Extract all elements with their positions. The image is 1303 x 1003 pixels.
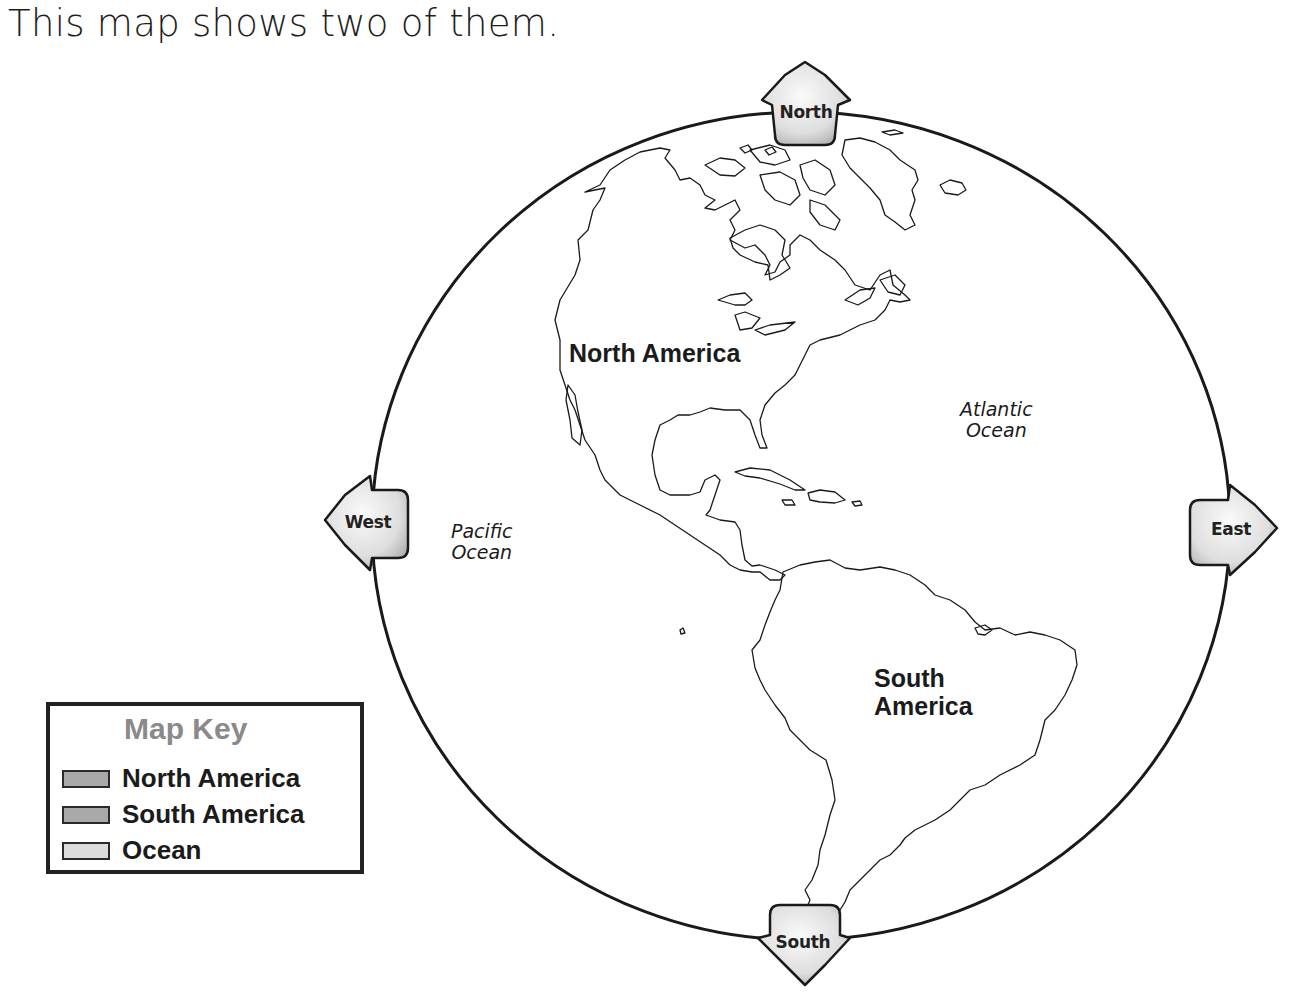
legend-label: North America bbox=[122, 763, 300, 794]
pacific-ocean-line1: Pacific bbox=[451, 521, 513, 542]
south-america-swatch bbox=[62, 806, 110, 824]
pacific-ocean-label: Pacific Ocean bbox=[451, 521, 513, 564]
compass-south-label: South bbox=[776, 932, 831, 952]
south-america-label-line2: America bbox=[874, 692, 973, 720]
atlantic-ocean-line1: Atlantic bbox=[960, 399, 1033, 420]
map-key: Map Key North America South America Ocea… bbox=[46, 702, 364, 874]
south-america-label: South America bbox=[874, 664, 973, 720]
atlantic-ocean-line2: Ocean bbox=[960, 420, 1033, 441]
north-america-label: North America bbox=[569, 339, 740, 367]
south-america-label-line1: South bbox=[874, 664, 973, 692]
legend-item-north-america: North America bbox=[62, 763, 300, 794]
legend-label: Ocean bbox=[122, 835, 202, 866]
compass-east-label: East bbox=[1211, 519, 1251, 539]
atlantic-ocean-label: Atlantic Ocean bbox=[960, 399, 1033, 442]
legend-label: South America bbox=[122, 799, 305, 830]
compass-west-label: West bbox=[345, 512, 392, 532]
compass-north-label: North bbox=[779, 102, 832, 122]
pacific-ocean-line2: Ocean bbox=[451, 542, 513, 563]
legend-item-south-america: South America bbox=[62, 799, 305, 830]
ocean-swatch bbox=[62, 842, 110, 860]
map-key-title: Map Key bbox=[124, 712, 247, 746]
north-america-swatch bbox=[62, 770, 110, 788]
legend-item-ocean: Ocean bbox=[62, 835, 202, 866]
